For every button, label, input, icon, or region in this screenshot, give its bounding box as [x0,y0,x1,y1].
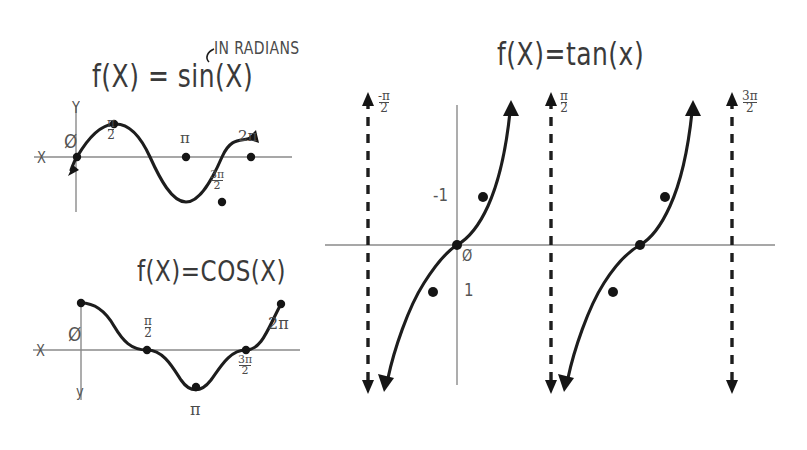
tangent-point-origin [452,240,462,250]
tangent-branch-2-top-arrowhead [685,100,701,116]
tangent-branch-1-bottom-arrowhead [378,374,394,392]
cosine-tick-pi-over-2-den: 2 [144,328,152,339]
tangent-value-label-lower: 1 [464,280,474,301]
tangent-origin-label: Ø [462,247,472,264]
sine-panel: IN RADIANS f(X) = sin(X) X Y Ø [0,0,330,230]
tangent-asymptote-2-bottom-arrowhead [545,380,557,394]
sine-point-2pi [247,153,255,161]
cosine-tick-3pi-over-2: 3π 2 [238,355,252,377]
tangent-branch-2-bottom-arrowhead [558,374,574,392]
cosine-x-axis-label: X [36,342,45,359]
cosine-tick-pi-over-2: π 2 [144,316,152,340]
tangent-asymptote-1-top-arrowhead [362,92,374,106]
tangent-point-branch2-lower [608,287,618,297]
sine-tick-3pi-over-2: 3π 2 [210,170,224,192]
tangent-asymptote-label-3-den: 2 [742,103,758,114]
tangent-point-branch2-upper [660,192,670,202]
sine-plot [0,0,330,230]
tangent-asymptote-label-minus-pi-over-2: -π 2 [378,91,390,115]
tangent-branch-1-top-arrowhead [503,100,519,116]
cosine-origin-label: Ø [68,323,81,346]
cosine-point-pi-over-2 [143,346,151,354]
radians-pointer-icon [207,49,214,62]
whiteboard-sheet: IN RADIANS f(X) = sin(X) X Y Ø [0,0,807,450]
sine-tick-pi: π [180,131,190,146]
cosine-y-axis-label: y [76,383,84,400]
tangent-asymptote-label-1-den: 2 [378,103,390,114]
tangent-asymptote-label-2-den: 2 [560,103,568,114]
sine-point-pi [182,153,190,161]
sine-origin-label: Ø [64,130,77,153]
tangent-plot [320,0,807,450]
cosine-tick-pi: π [190,402,201,418]
sine-point-3pi-over-2 [218,198,226,206]
cosine-tick-3pi-over-2-den: 2 [238,366,252,376]
cosine-tick-2pi: 2π [268,316,289,332]
cosine-panel: f(X)=COS(X) X y Ø π 2 π [0,240,330,450]
cosine-point-0 [77,299,85,307]
tangent-asymptote-3-bottom-arrowhead [726,380,738,394]
tangent-asymptote-label-3pi-over-2: 3π 2 [742,91,758,115]
sine-x-axis-label: X [37,149,46,166]
tangent-point-branch1-upper [478,192,488,202]
sine-tick-pi-over-2: π 2 [107,118,115,142]
tangent-asymptote-2-top-arrowhead [545,92,557,106]
sine-tick-2pi: 2π [238,129,257,144]
tangent-point-branch1-lower [428,287,438,297]
tangent-asymptote-label-pi-over-2: π 2 [560,91,568,115]
tangent-value-label-upper: -1 [433,185,448,206]
sine-point-0 [73,153,81,161]
cosine-point-2pi [277,300,285,308]
tangent-point-pi [635,240,645,250]
cosine-plot [0,240,330,445]
sine-curve [71,124,252,202]
sine-tick-3pi-over-2-den: 2 [210,181,224,191]
tangent-asymptote-1-bottom-arrowhead [362,380,374,394]
tangent-panel: f(X)=tan(x) [320,0,807,450]
tangent-asymptote-3-top-arrowhead [726,92,738,106]
sine-tick-pi-over-2-den: 2 [107,130,115,141]
sine-y-axis-label: Y [72,99,80,116]
cosine-point-pi [192,383,200,391]
